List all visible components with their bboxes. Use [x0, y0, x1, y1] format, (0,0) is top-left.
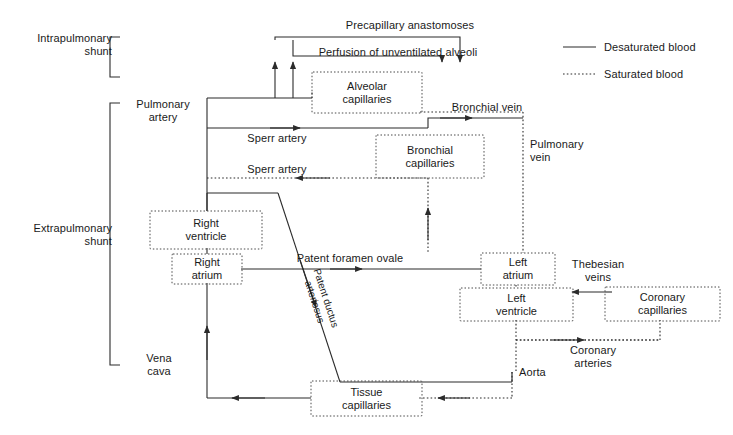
box-label-coronary-capillaries: Coronary capillaries — [605, 287, 720, 321]
bronchial-vein-path — [428, 118, 523, 128]
box-label-right-ventricle: Right ventricle — [150, 211, 262, 249]
label-patent-foramen-ovale: Patent foramen ovale — [255, 252, 445, 265]
label-aorta: Aorta — [519, 366, 579, 379]
coronary-arteries-path — [516, 320, 660, 340]
label-thebesian-veins: Thebesian veins — [558, 258, 638, 284]
label-pulmonary-vein: Pulmonary vein — [530, 138, 620, 164]
label-precapillary-anastomoses: Precapillary anastomoses — [300, 19, 520, 32]
label-sperr-artery-2: Sperr artery — [222, 163, 332, 176]
label-vena-cava: Vena cava — [128, 352, 190, 378]
bracket-label-intrapulmonary-shunt: Intrapulmonary shunt — [8, 32, 112, 58]
label-sperr-artery-1: Sperr artery — [222, 132, 332, 145]
bracket-label-extrapulmonary-shunt: Extrapulmonary shunt — [8, 222, 112, 248]
shunt-diagram: Intrapulmonary shunt Extrapulmonary shun… — [0, 0, 733, 435]
box-label-left-ventricle: Left ventricle — [460, 288, 573, 321]
box-label-left-atrium: Left atrium — [481, 253, 555, 285]
label-perfusion-unventilated-alveoli: Perfusion of unventilated alveoli — [273, 46, 523, 59]
label-pulmonary-artery: Pulmonary artery — [118, 98, 208, 124]
aorta-path — [419, 372, 512, 398]
label-bronchial-vein: Bronchial vein — [432, 101, 542, 114]
box-label-tissue-capillaries: Tissue capillaries — [311, 381, 422, 416]
box-label-alveolar-capillaries: Alveolar capillaries — [312, 72, 422, 113]
legend-label-saturated-blood: Saturated blood — [604, 68, 733, 81]
box-label-right-atrium: Right atrium — [172, 254, 242, 284]
box-label-bronchial-capillaries: Bronchial capillaries — [376, 135, 484, 178]
pulmonary-vein-path — [420, 112, 523, 253]
vena-cava-path — [207, 283, 311, 398]
legend-label-desaturated-blood: Desaturated blood — [604, 41, 733, 54]
